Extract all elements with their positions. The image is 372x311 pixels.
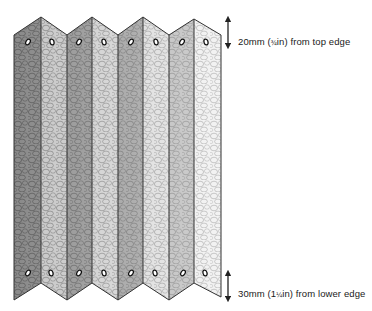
metric-value: 30: [238, 288, 249, 299]
lower-edge-annotation: 30mm (1¼in) from lower edge: [238, 288, 365, 299]
metric-value: 20: [238, 36, 249, 47]
top-edge-annotation: 20mm (¾in) from top edge: [238, 36, 350, 47]
annotation-text: from top edge: [290, 36, 350, 47]
metric-unit: mm: [249, 288, 265, 299]
imperial-unit: in: [277, 36, 285, 47]
annotation-text: from lower edge: [296, 288, 366, 299]
metric-unit: mm: [249, 36, 265, 47]
imperial-unit: in: [282, 288, 290, 299]
